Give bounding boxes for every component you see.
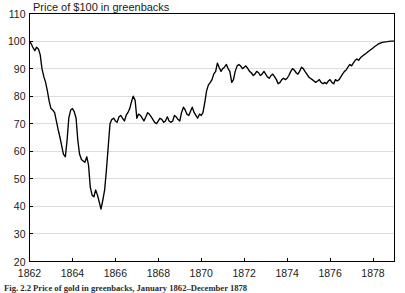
y-tick-label: 100 [8, 35, 26, 47]
y-tick-label: 30 [14, 228, 26, 240]
chart-title: Price of $100 in greenbacks [33, 1, 170, 13]
y-tick-label: 50 [14, 173, 26, 185]
y-tick-label: 60 [14, 145, 26, 157]
figure-caption: Fig. 2.2 Price of gold in greenbacks, Ja… [4, 283, 402, 293]
y-tick-label: 110 [9, 8, 26, 20]
greenback-price-line [30, 41, 395, 209]
plot-area-frame [30, 14, 395, 262]
x-tick-label: 1868 [147, 267, 171, 279]
y-tick-label: 90 [14, 63, 26, 75]
figure-container: 2030405060708090100110 18621864186618681… [0, 0, 405, 293]
x-tick-label: 1866 [104, 267, 128, 279]
x-tick-label: 1876 [318, 267, 342, 279]
chart-gridlines [30, 41, 395, 234]
price-of-greenbacks-line-chart: 2030405060708090100110 18621864186618681… [0, 0, 405, 293]
x-tick-label: 1874 [275, 267, 299, 279]
y-tick-label: 70 [14, 118, 26, 130]
x-tick-label: 1870 [190, 267, 214, 279]
x-tick-label: 1878 [361, 267, 385, 279]
x-tick-label: 1862 [18, 267, 42, 279]
y-tick-label: 80 [14, 90, 26, 102]
x-tick-label: 1872 [233, 267, 257, 279]
y-tick-label: 40 [14, 200, 26, 212]
x-tick-label: 1864 [61, 267, 85, 279]
